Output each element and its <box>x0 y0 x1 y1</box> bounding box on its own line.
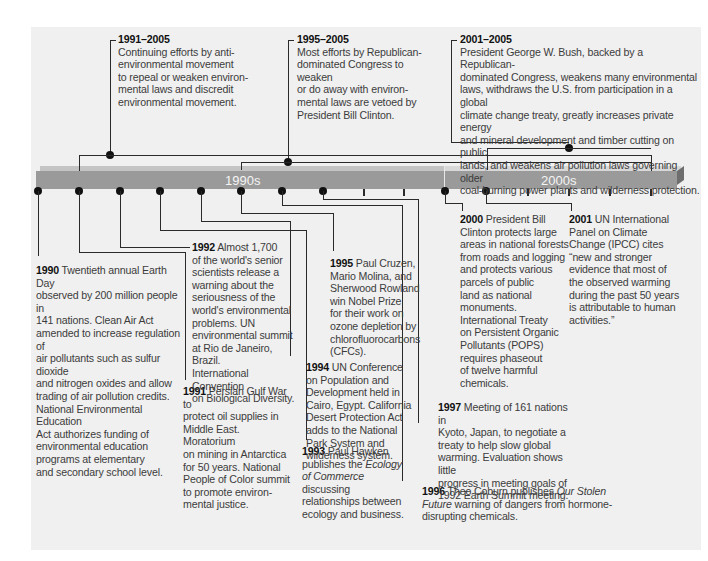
event-line: adds to the National <box>306 424 397 436</box>
connector-1996-a <box>282 191 283 205</box>
event-year: 2000 <box>460 213 483 225</box>
event-line: Almost 1,700 <box>217 241 277 253</box>
event-line: International Convention <box>192 367 248 392</box>
event-line: dominated Congress, weakens many environ… <box>460 71 697 83</box>
connector-1990 <box>38 191 39 256</box>
event-line: and protects various <box>460 263 552 275</box>
event-line: People of Color summit <box>183 473 290 485</box>
event-line: progress in meeting goals of <box>438 477 567 489</box>
event-line: scientists release a <box>192 266 279 278</box>
event-line: win Nobel Prize <box>330 295 401 307</box>
event-years: 1995–2005 <box>297 33 437 46</box>
event-line: Sherwood Rowland <box>330 282 419 294</box>
event-years: 1991–2005 <box>118 33 288 46</box>
connector-1991-2005 <box>110 40 111 155</box>
connector-1991-b <box>79 252 185 253</box>
connector-1993-a <box>160 191 161 230</box>
event-line: on mining in Antarctica <box>183 448 286 460</box>
event-line: protect oil supplies in <box>183 410 278 422</box>
event-line: disrupting chemicals. <box>422 510 518 522</box>
event-line: Clinton protects large <box>460 226 557 238</box>
connector-1997-a <box>323 191 324 199</box>
event-1992: 1992 Almost 1,700 of the world's senior … <box>192 241 302 405</box>
event-line: Mario Molina, and <box>330 270 412 282</box>
event-line: International Treaty <box>460 314 548 326</box>
event-line: the observed warming <box>569 276 670 288</box>
connector-1992-b <box>120 247 190 248</box>
range-start-1995 <box>241 162 242 170</box>
event-2001: 2001 UN International Panel on Climate C… <box>569 213 694 326</box>
event-line: ozone depletion by <box>330 320 416 332</box>
connector-1995-2005-tick <box>288 40 294 41</box>
event-line: chemicals. <box>460 377 509 389</box>
connector-1996-b <box>282 205 402 206</box>
event-line: problems. UN <box>192 317 255 329</box>
event-line: Park System and <box>306 437 384 449</box>
event-line: and mineral development and timber cutti… <box>460 134 674 159</box>
decade-divider <box>444 166 445 188</box>
connector-1991-2005-tick <box>110 40 116 41</box>
event-line: 1992 Earth Summit meeting. <box>438 489 568 501</box>
event-line: Paul Cruzen, <box>356 257 415 269</box>
event-line: environmental movement. <box>118 96 236 108</box>
event-year: 1990 <box>36 264 59 276</box>
event-1995: 1995 Paul Cruzen, Mario Molina, and Sher… <box>330 257 430 358</box>
connector-2000-c <box>462 203 463 211</box>
event-line: environmental movement <box>118 58 234 70</box>
connector-1995-c <box>333 213 334 251</box>
event-line: monuments. <box>460 301 517 313</box>
connector-2000-b <box>445 203 462 204</box>
event-line: UN Conference <box>332 361 403 373</box>
event-line: “new and stronger <box>569 251 652 263</box>
event-line: and secondary school level. <box>36 466 163 478</box>
connector-2000-a <box>445 191 446 203</box>
event-line: President Bill <box>486 213 546 225</box>
event-line: UN International <box>595 213 669 225</box>
event-line: Continuing efforts by anti- <box>118 46 234 58</box>
connector-1995-2005 <box>288 40 289 162</box>
event-line: parcels of public <box>460 276 534 288</box>
event-line: laws, withdraws the U.S. from participat… <box>460 83 672 108</box>
event-line: of the world's senior <box>192 254 283 266</box>
event-line: and nitrogen oxides and allow <box>36 377 172 389</box>
event-years: 2001–2005 <box>460 33 700 46</box>
event-line: on Persistent Organic <box>460 326 559 338</box>
event-line: 141 nations. Clean Air Act <box>36 314 153 326</box>
event-line: environmental summit <box>192 329 293 341</box>
connector-2001-2005-tick <box>451 40 457 41</box>
event-line: warming. Evaluation shows little <box>438 451 563 476</box>
event-line: climate change treaty, greatly increases… <box>460 109 673 134</box>
event-line: President George W. Bush, backed by a Re… <box>460 46 643 71</box>
event-line: Pollutants (POPS) <box>460 339 543 351</box>
event-line: (CFCs). <box>330 345 366 357</box>
event-line: wilderness system. <box>306 449 393 461</box>
event-line: treaty to help slow global <box>438 439 551 451</box>
timeline-tick-1998 <box>363 189 365 196</box>
event-line: ecology and business. <box>302 508 404 520</box>
event-year: 1997 <box>438 401 461 413</box>
connector-2001-2005 <box>451 40 452 142</box>
event-line: is attributable to human <box>569 301 676 313</box>
event-line: mental laws and discredit <box>118 83 233 95</box>
connector-1995-a <box>241 191 242 213</box>
event-1997: 1997 Meeting of 161 nations in Kyoto, Ja… <box>438 401 578 502</box>
connector-1997-b <box>323 199 418 200</box>
event-1991-2005: 1991–2005 Continuing efforts by anti- en… <box>118 33 288 109</box>
event-line: Middle East. Moratorium <box>183 423 240 448</box>
event-line: lands, and weakens air pollution laws go… <box>460 159 677 184</box>
event-line: of twelve harmful <box>460 364 538 376</box>
connector-2001-c <box>571 203 572 211</box>
connector-1994-b <box>201 221 290 222</box>
event-line: or do away with environ- <box>297 83 408 95</box>
event-line: areas in national forests <box>460 238 569 250</box>
event-line: programs at elementary <box>36 453 145 465</box>
event-line: Cairo, Egypt. California <box>306 399 411 411</box>
event-line: Kyoto, Japan, to negotiate a <box>438 426 566 438</box>
connector-2001-b <box>486 203 571 204</box>
connector-1995-b <box>241 213 333 214</box>
event-year: 1994 <box>306 361 329 373</box>
event-line: requires phaseout <box>460 352 542 364</box>
timeline-tick-1999 <box>403 189 405 196</box>
event-line: during the past 50 years <box>569 289 679 301</box>
event-2001-2005: 2001–2005 President George W. Bush, back… <box>460 33 700 197</box>
